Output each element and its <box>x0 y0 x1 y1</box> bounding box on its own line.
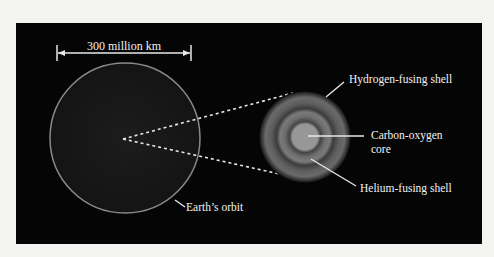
helium-shell-label: Helium-fusing shell <box>360 182 452 195</box>
core-label-line2: core <box>371 143 391 156</box>
scale-label: 300 million km <box>87 40 161 53</box>
core-label-line1: Carbon-oxygen <box>371 129 443 142</box>
star-cross-section <box>259 91 351 183</box>
hydrogen-shell-label: Hydrogen-fusing shell <box>349 73 452 86</box>
earth-orbit-label: Earth’s orbit <box>186 201 243 214</box>
